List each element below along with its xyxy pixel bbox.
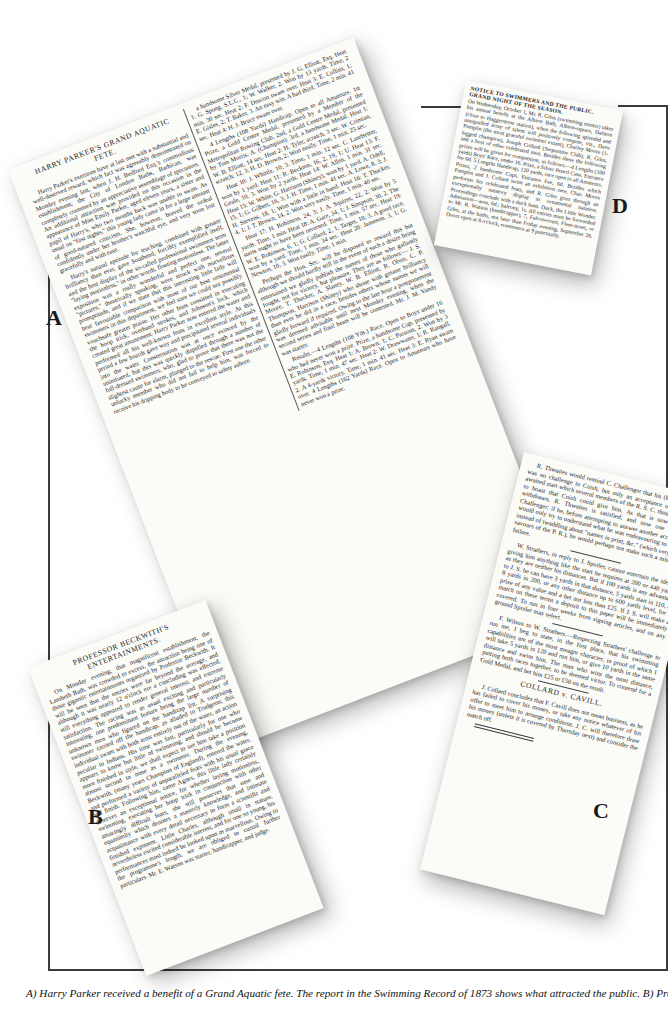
frame-line-bottom [48, 969, 668, 971]
frame-line-top-middle [421, 106, 461, 108]
frame-line-left [48, 252, 50, 970]
label-d: D [612, 193, 628, 219]
label-b: B [88, 804, 103, 830]
frame-line-top-right [618, 105, 668, 107]
label-a: A [46, 305, 62, 331]
label-c: C [593, 798, 609, 824]
clipping-d-notice-to-swimmers: NOTICE TO SWIMMERS AND THE PUBLIC. GRAND… [434, 80, 623, 275]
figure-caption: A) Harry Parker received a benefit of a … [26, 986, 668, 1001]
